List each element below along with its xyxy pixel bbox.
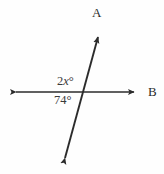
ray-endpoint-label-a: A [92,6,101,19]
angle-label-74: 74° [54,94,72,107]
angle-degree-symbol: ° [69,74,74,88]
angle-degree-symbol: ° [67,93,72,107]
angle-label-2x: 2x° [57,75,74,88]
angle-value: 74 [54,93,67,107]
geometry-diagram: A B 2x° 74° [0,0,164,174]
ray-endpoint-label-b: B [148,85,157,98]
geometry-canvas [0,0,164,174]
